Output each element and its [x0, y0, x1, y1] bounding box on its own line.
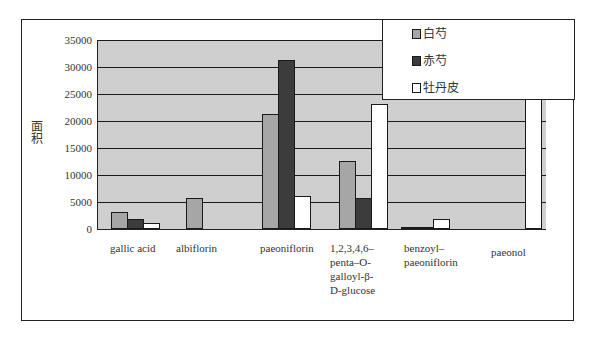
legend-label: 牡丹皮 — [423, 81, 459, 95]
bar-chishao — [127, 219, 144, 229]
legend-swatch-icon — [412, 83, 421, 93]
x-label-gallic-acid: gallic acid — [110, 241, 156, 255]
y-tick-30000: 30000 — [40, 61, 92, 73]
bar-mudanpi — [143, 223, 160, 229]
legend-item-chishao: 赤芍 — [412, 54, 447, 68]
legend-swatch-icon — [412, 56, 421, 66]
gridline — [98, 202, 546, 203]
gridline — [98, 148, 546, 149]
gridline — [98, 121, 546, 122]
legend-label: 赤芍 — [423, 54, 447, 68]
y-tick-10000: 10000 — [40, 169, 92, 181]
bar-mudanpi — [433, 219, 450, 229]
x-label-paeoniflorin: paeoniflorin — [260, 241, 314, 255]
bar-mudanpi — [371, 104, 388, 229]
y-tick-25000: 25000 — [40, 88, 92, 100]
legend-label: 白芍 — [423, 27, 447, 41]
legend-item-mudanpi: 牡丹皮 — [412, 81, 459, 95]
legend-swatch-icon — [412, 29, 421, 39]
bar-chishao — [417, 227, 434, 229]
y-tick-35000: 35000 — [40, 34, 92, 46]
y-tick-15000: 15000 — [40, 142, 92, 154]
y-tick-5000: 5000 — [40, 196, 92, 208]
x-label-paeonol: paeonol — [491, 245, 526, 259]
bar-baishao — [401, 227, 418, 229]
x-label-albiflorin: albiflorin — [176, 241, 217, 255]
bar-baishao — [186, 198, 203, 229]
x-label-pgg: 1,2,3,4,6– penta–O- galloyl-β- D-glucose — [330, 241, 375, 297]
y-tick-20000: 20000 — [40, 115, 92, 127]
x-label-benzoylpaeoniflorin: benzoyl– paeoniflorin — [404, 241, 458, 269]
bar-chishao — [278, 60, 295, 229]
bar-mudanpi — [294, 196, 311, 229]
bar-baishao — [262, 114, 279, 229]
bar-baishao — [111, 212, 128, 229]
legend: 白芍 赤芍 牡丹皮 — [382, 19, 575, 100]
gridline — [98, 175, 546, 176]
bar-chishao — [355, 198, 372, 229]
legend-item-baishao: 白芍 — [412, 27, 447, 41]
y-tick-0: 0 — [40, 223, 92, 235]
bar-baishao — [339, 161, 356, 229]
